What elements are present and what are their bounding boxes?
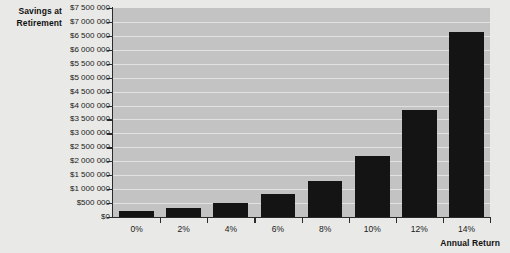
x-axis-tick-label: 12% <box>394 224 444 234</box>
y-axis-tick-mark <box>107 119 113 120</box>
y-axis-tick-label: $7 500 000 <box>58 4 110 12</box>
y-axis-tick-label: $1 000 000 <box>58 185 110 193</box>
x-axis-tick-mark <box>302 218 303 223</box>
bar <box>402 110 437 217</box>
y-axis-tick-mark <box>107 92 113 93</box>
gridline <box>113 22 490 23</box>
x-axis-tick-label: 6% <box>253 224 303 234</box>
x-axis-tick-label: 8% <box>300 224 350 234</box>
y-axis-tick-label: $5 000 000 <box>58 74 110 82</box>
x-axis-tick-label: 4% <box>206 224 256 234</box>
y-axis-tick-mark <box>107 175 113 176</box>
y-axis-line <box>112 7 113 218</box>
y-axis-tick-mark <box>107 133 113 134</box>
x-axis-tick-mark <box>207 218 208 223</box>
x-axis-tick-mark <box>160 218 161 223</box>
y-axis-tick-label: $0 <box>58 213 110 221</box>
y-axis-tick-mark <box>107 189 113 190</box>
y-axis-title: Savings at Retirement <box>0 6 62 29</box>
gridline <box>113 64 490 65</box>
bar-chart: Savings at Retirement $7 500 000$7 000 0… <box>0 0 510 253</box>
bar <box>308 181 343 217</box>
y-axis-tick-mark <box>107 78 113 79</box>
y-axis-tick-label: $6 500 000 <box>58 32 110 40</box>
y-axis-tick-label: $5 500 000 <box>58 60 110 68</box>
y-axis-tick-label: $1 500 000 <box>58 171 110 179</box>
y-axis-tick-mark <box>107 106 113 107</box>
y-axis-tick-label: $3 000 000 <box>58 129 110 137</box>
y-axis-tick-label: $2 000 000 <box>58 157 110 165</box>
x-axis-tick-mark <box>443 218 444 223</box>
gridline <box>113 92 490 93</box>
y-axis-tick-mark <box>107 217 113 218</box>
x-axis-tick-label: 14% <box>441 224 491 234</box>
y-axis-tick-label: $4 000 000 <box>58 102 110 110</box>
y-axis-tick-labels: $7 500 000$7 000 000$6 500 000$6 000 000… <box>58 0 110 253</box>
gridline <box>113 78 490 79</box>
y-axis-tick-mark <box>107 50 113 51</box>
x-axis-tick-mark <box>254 218 255 223</box>
gridline <box>113 36 490 37</box>
y-axis-tick-mark <box>107 8 113 9</box>
x-axis-tick-mark <box>490 218 491 223</box>
x-axis-tick-mark <box>396 218 397 223</box>
y-axis-tick-label: $3 500 000 <box>58 115 110 123</box>
bar <box>261 194 296 217</box>
y-axis-title-line1: Savings at <box>0 6 62 18</box>
bar <box>166 208 201 217</box>
plot-area <box>113 8 490 217</box>
gridline <box>113 50 490 51</box>
x-axis-tick-label: 2% <box>159 224 209 234</box>
x-axis-tick-mark <box>349 218 350 223</box>
y-axis-tick-mark <box>107 64 113 65</box>
y-axis-tick-mark <box>107 161 113 162</box>
y-axis-tick-mark <box>107 203 113 204</box>
bar <box>355 156 390 217</box>
y-axis-tick-label: $2 500 000 <box>58 143 110 151</box>
y-axis-tick-label: $4 500 000 <box>58 88 110 96</box>
y-axis-tick-mark <box>107 147 113 148</box>
bar <box>213 203 248 217</box>
y-axis-title-line2: Retirement <box>0 18 62 30</box>
y-axis-tick-mark <box>107 36 113 37</box>
bar <box>449 32 484 217</box>
y-axis-tick-label: $7 000 000 <box>58 18 110 26</box>
y-axis-tick-label: $6 000 000 <box>58 46 110 54</box>
x-axis-title: Annual Return <box>440 238 500 248</box>
y-axis-tick-mark <box>107 22 113 23</box>
y-axis-tick-label: $500 000 <box>58 199 110 207</box>
x-axis-tick-label: 0% <box>112 224 162 234</box>
gridline <box>113 106 490 107</box>
x-axis-tick-label: 10% <box>347 224 397 234</box>
